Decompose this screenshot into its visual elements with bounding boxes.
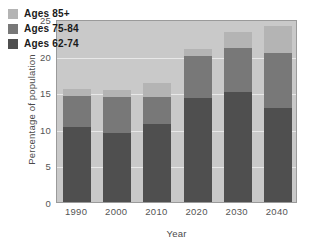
gridline [57,58,296,59]
bar-segment [143,83,171,98]
legend-item: Ages 75-84 [8,21,79,36]
bar-segment [103,90,131,97]
legend-item-label: Ages 75-84 [24,23,79,34]
y-tick-label: 20 [11,51,51,62]
x-axis-title: Year [56,228,297,239]
legend-swatch-icon [8,9,18,19]
bar-segment [103,97,131,134]
bar-segment [224,92,252,202]
bar-segment [143,124,171,202]
bar-segment [143,97,171,124]
bar-segment [63,89,91,96]
x-tick-label: 2040 [249,206,305,217]
gridline [57,131,296,132]
bar-stack [264,26,292,202]
bar-stack [63,89,91,202]
bar-segment [103,133,131,202]
y-tick-label: 10 [11,124,51,135]
bar-stack [184,49,212,202]
y-tick-label: 5 [11,161,51,172]
bar-segment [184,98,212,202]
bar-segment [264,53,292,109]
bar-segment [264,26,292,52]
stacked-bar-chart-figure: Percentage of population 0510152025 1990… [0,0,313,247]
y-tick-label: 0 [11,198,51,209]
gridline [57,167,296,168]
legend-item: Ages 85+ [8,6,79,21]
chart-legend: Ages 85+Ages 75-84Ages 62-74 [8,6,79,51]
bar-segment [264,108,292,202]
legend-item-label: Ages 62-74 [24,38,79,49]
bar-stack [103,90,131,202]
bar-segment [224,32,252,48]
legend-swatch-icon [8,24,18,34]
y-tick-label: 15 [11,88,51,99]
bar-stack [143,83,171,202]
legend-item-label: Ages 85+ [24,8,70,19]
bar-segment [224,48,252,92]
bar-segment [63,96,91,127]
gridline [57,94,296,95]
legend-swatch-icon [8,39,18,49]
bar-stack [224,32,252,202]
legend-item: Ages 62-74 [8,36,79,51]
bar-segment [184,49,212,56]
bar-segment [63,127,91,202]
bar-segment [184,56,212,98]
plot-area [56,20,297,203]
